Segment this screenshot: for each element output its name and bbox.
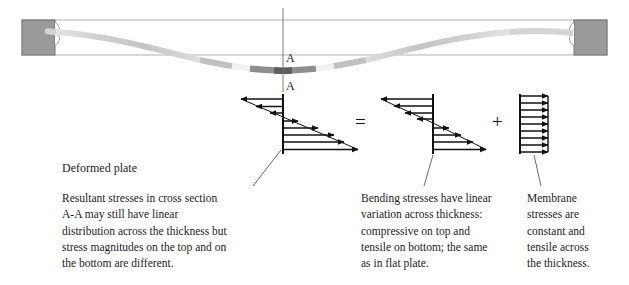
- diagram-resultant-stresses: [241, 94, 358, 154]
- section-label-a-top: A: [286, 52, 295, 64]
- deformed-plate-label: Deformed plate: [62, 160, 137, 177]
- caption-resultant-stresses: Resultant stresses in cross section A-A …: [62, 190, 272, 272]
- left-support-block: [22, 20, 55, 55]
- caption-bending-stresses: Bending stresses have linear variation a…: [361, 190, 511, 272]
- figure-canvas: A A: [0, 0, 629, 285]
- diagram-membrane-stresses: [520, 94, 548, 154]
- caption-membrane-stresses: Membrane stresses are constant and tensi…: [527, 190, 625, 272]
- right-support-block: [574, 20, 607, 55]
- deformed-plate-band: [48, 31, 573, 71]
- deformed-plate-figure: [0, 0, 629, 92]
- equals-operator: =: [355, 112, 366, 131]
- diagram-bending-stresses: [381, 94, 486, 154]
- plus-operator: +: [492, 112, 503, 131]
- stress-diagrams-group: [0, 88, 629, 168]
- stress-diagrams-svg: [0, 88, 629, 168]
- deformed-plate-svg: [0, 0, 629, 92]
